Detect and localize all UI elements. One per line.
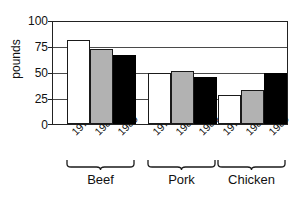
y-tick-100: 100: [18, 16, 48, 26]
x-axis-year-labels: 197019801989197019801989197019801989: [52, 125, 288, 165]
bar-pork-1989: [194, 77, 217, 124]
y-axis-tick-labels: 100 75 50 25 0: [18, 0, 48, 205]
y-tick-25: 25: [18, 94, 48, 104]
bar-beef-1970: [67, 40, 90, 124]
group-label-chicken: Chicken: [217, 172, 286, 187]
bar-beef-1980: [90, 49, 113, 124]
bar-chicken-1980: [241, 90, 264, 124]
group-label-beef: Beef: [66, 172, 135, 187]
bar-chicken-1989: [264, 73, 287, 124]
bar-beef-1989: [113, 55, 136, 124]
brace-pork: [147, 160, 216, 170]
bar-pork-1980: [171, 71, 194, 124]
bar-pork-1970: [148, 73, 171, 124]
group-label-pork: Pork: [147, 172, 216, 187]
bar-chart: pounds 100 75 50 25 0 197019801989197019…: [0, 0, 297, 205]
x-axis-group-labels: BeefPorkChicken: [52, 160, 288, 205]
brace-beef: [66, 160, 135, 170]
plot-area: [52, 21, 288, 125]
bars-layer: [53, 22, 287, 124]
y-tick-75: 75: [18, 42, 48, 52]
y-tick-50: 50: [18, 68, 48, 78]
y-tick-0: 0: [18, 120, 48, 130]
brace-chicken: [217, 160, 286, 170]
bar-chicken-1970: [218, 95, 241, 124]
